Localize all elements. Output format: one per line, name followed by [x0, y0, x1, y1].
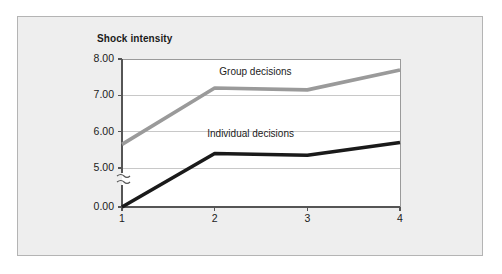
chart-figure: Shock intensity 8.00 7.00 6.00 5.00 0.00…: [0, 0, 502, 274]
series-label-group-decisions: Group decisions: [219, 66, 291, 77]
series-label-individual-decisions: Individual decisions: [207, 128, 294, 139]
